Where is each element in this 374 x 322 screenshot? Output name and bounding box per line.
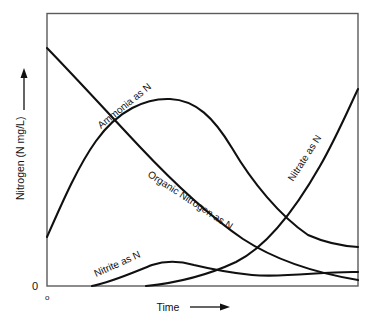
y-axis-zero-tick: 0: [32, 280, 38, 292]
series-label-ammonia: Ammonia as N: [95, 81, 153, 131]
y-axis-label: Nitrogen (N mg/L): [14, 117, 26, 200]
series-label-nitrite: Nitrite as N: [92, 249, 142, 279]
series-label-organic-nitrogen: Organic Nitrogen as N: [146, 168, 235, 231]
x-axis-label: Time: [157, 301, 180, 313]
y-axis-arrow-head: [21, 68, 28, 78]
x-axis-arrow-head: [220, 304, 230, 311]
series-label-nitrate: Nitrate as N: [285, 133, 323, 183]
chart-canvas: Ammonia as N Organic Nitrogen as N Nitra…: [0, 0, 374, 322]
curve-nitrite: [92, 262, 358, 286]
curve-organic-nitrogen: [47, 48, 358, 280]
nitrogen-time-chart: Ammonia as N Organic Nitrogen as N Nitra…: [0, 0, 374, 322]
origin-mark: o: [45, 293, 50, 302]
curve-ammonia: [47, 99, 358, 247]
